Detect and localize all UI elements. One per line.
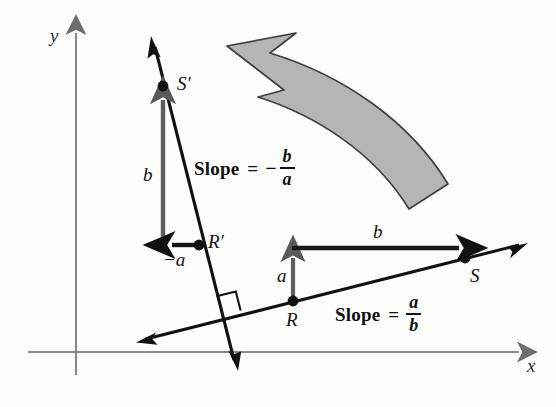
diagram-canvas xyxy=(0,0,556,407)
line-RpSp-top-arrowhead xyxy=(148,36,161,59)
point-label-R: R xyxy=(286,310,298,329)
line-through-Rprime-Sprime xyxy=(155,47,234,360)
line-RS-left-arrowhead xyxy=(136,333,158,345)
segment-label-negative-a: −a xyxy=(163,250,185,269)
slope-label-positive: Slope = a b xyxy=(335,294,421,336)
point-R xyxy=(288,296,299,307)
line-RpSp-bottom-arrowhead xyxy=(228,350,241,371)
slope-word-negative: Slope xyxy=(194,158,239,180)
point-S-prime xyxy=(158,81,169,92)
slope-fraction-negative: b a xyxy=(280,147,295,189)
point-label-S: S xyxy=(470,266,480,285)
slope-equals-positive: = xyxy=(388,304,399,326)
x-axis-label: x xyxy=(527,356,535,375)
geometry-figure: y x R S R′ S′ b a b −a Slope = a b Slope… xyxy=(0,0,556,407)
point-S xyxy=(460,253,471,264)
segment-label-a-vertical: a xyxy=(277,266,287,285)
y-axis-label: y xyxy=(50,26,58,45)
slope-word-positive: Slope xyxy=(335,304,380,326)
point-R-prime xyxy=(194,240,205,251)
slope-minus-sign-negative: − xyxy=(265,157,276,180)
axis-group xyxy=(28,33,519,375)
slope-denominator-positive: b xyxy=(407,315,420,335)
slope-fraction-positive: a b xyxy=(406,293,421,335)
slope-denominator-negative: a xyxy=(281,169,294,189)
point-label-S-prime: S′ xyxy=(177,74,191,93)
slope-equals-negative: = xyxy=(247,158,258,180)
segment-label-b-vertical: b xyxy=(143,165,153,184)
segment-label-b-horizontal: b xyxy=(373,222,383,241)
slope-numerator-positive: a xyxy=(407,293,420,313)
slope-numerator-negative: b xyxy=(281,147,294,167)
point-label-R-prime: R′ xyxy=(208,232,224,251)
slope-label-negative: Slope = − b a xyxy=(194,148,295,190)
